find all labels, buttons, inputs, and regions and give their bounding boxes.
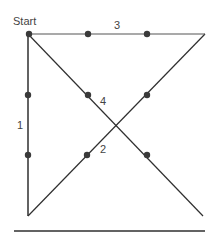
dot (85, 92, 91, 98)
segment-1-label: 1 (17, 119, 23, 131)
dot (25, 92, 31, 98)
dot (85, 31, 91, 37)
start-label: Start (13, 15, 36, 27)
segment-4-label: 4 (100, 95, 106, 107)
segment-2-label: 2 (100, 143, 106, 155)
segment-3-label: 3 (114, 19, 120, 31)
dot (25, 152, 31, 158)
dot (144, 152, 150, 158)
dot (144, 92, 150, 98)
nine-dot-diagram: Start 1 2 3 4 (0, 0, 215, 233)
dot (84, 152, 90, 158)
dot (144, 31, 150, 37)
dot (26, 31, 32, 37)
